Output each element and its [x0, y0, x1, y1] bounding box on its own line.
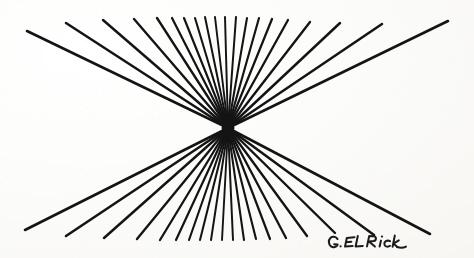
signature-glyph-l	[356, 236, 363, 247]
ray-lower-18	[228, 128, 430, 234]
ray-upper-17	[228, 23, 340, 128]
convergence-point	[222, 124, 235, 133]
signature-glyph-k	[393, 236, 399, 247]
signature-glyph-i-dot	[381, 236, 383, 238]
signature-artwork: G. ELRick	[326, 230, 434, 256]
radiating-lines-group	[0, 0, 474, 258]
signature-glyph-g	[329, 237, 338, 248]
lower-ray-fan	[25, 128, 430, 240]
signature-glyph-e	[345, 237, 355, 246]
signature-glyph-period	[339, 245, 341, 247]
signature-glyph-i	[380, 241, 381, 247]
ray-upper-19	[228, 21, 448, 128]
upper-ray-fan	[27, 17, 448, 128]
signature-glyph-c	[384, 241, 390, 247]
signature-glyph-r	[367, 236, 376, 247]
ray-upper-18	[228, 24, 382, 128]
ray-upper-16	[228, 22, 310, 128]
ray-lower-15	[228, 128, 307, 236]
signature-flourish	[397, 247, 406, 248]
signature: G. ELRick	[326, 230, 434, 256]
ray-upper-1	[66, 23, 228, 128]
ray-lower-16	[228, 128, 335, 233]
artwork-canvas: G. ELRick	[0, 0, 474, 258]
